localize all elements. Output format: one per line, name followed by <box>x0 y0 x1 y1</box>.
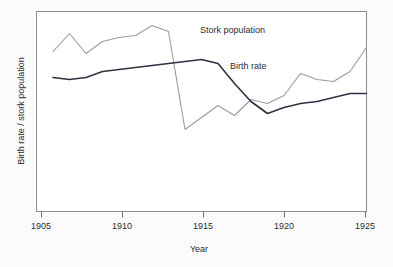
stork-birthrate-line-chart: 1905 1910 1915 1920 1925 Year Birth rate… <box>0 0 393 267</box>
series-annotation-birth-rate: Birth rate <box>230 61 267 71</box>
series-annotation-stork-population: Stork population <box>200 25 265 35</box>
x-tick-label-1: 1910 <box>112 221 132 231</box>
x-tick-label-2: 1915 <box>193 221 213 231</box>
x-tick-label-3: 1920 <box>274 221 294 231</box>
x-tick-label-0: 1905 <box>31 221 51 231</box>
y-axis-title: Birth rate / stork population <box>16 57 26 165</box>
x-axis-title: Year <box>190 244 208 254</box>
plot-area-frame <box>37 12 367 212</box>
x-tick-label-4: 1925 <box>355 221 375 231</box>
chart-page: 1905 1910 1915 1920 1925 Year Birth rate… <box>0 0 393 267</box>
